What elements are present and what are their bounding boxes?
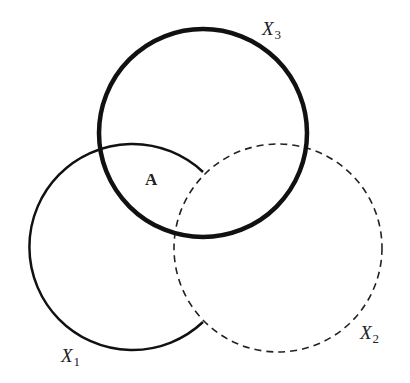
label-x3-sub: 3 bbox=[275, 27, 282, 42]
set-x1-arc bbox=[29, 144, 203, 350]
label-x2-main: X bbox=[360, 322, 372, 343]
label-x3-main: X bbox=[262, 18, 274, 39]
set-x2-circle bbox=[174, 144, 382, 352]
label-x3: X3 bbox=[262, 18, 281, 43]
label-x2: X2 bbox=[360, 322, 379, 347]
label-x1-sub: 1 bbox=[74, 354, 81, 369]
label-x2-sub: 2 bbox=[373, 331, 380, 346]
region-label-a: A bbox=[145, 170, 157, 190]
label-x1-main: X bbox=[61, 345, 73, 366]
set-x3-circle bbox=[99, 29, 307, 237]
venn-svg bbox=[0, 0, 410, 383]
venn-diagram: X3 A X1 X2 bbox=[0, 0, 410, 383]
label-x1: X1 bbox=[61, 345, 80, 370]
